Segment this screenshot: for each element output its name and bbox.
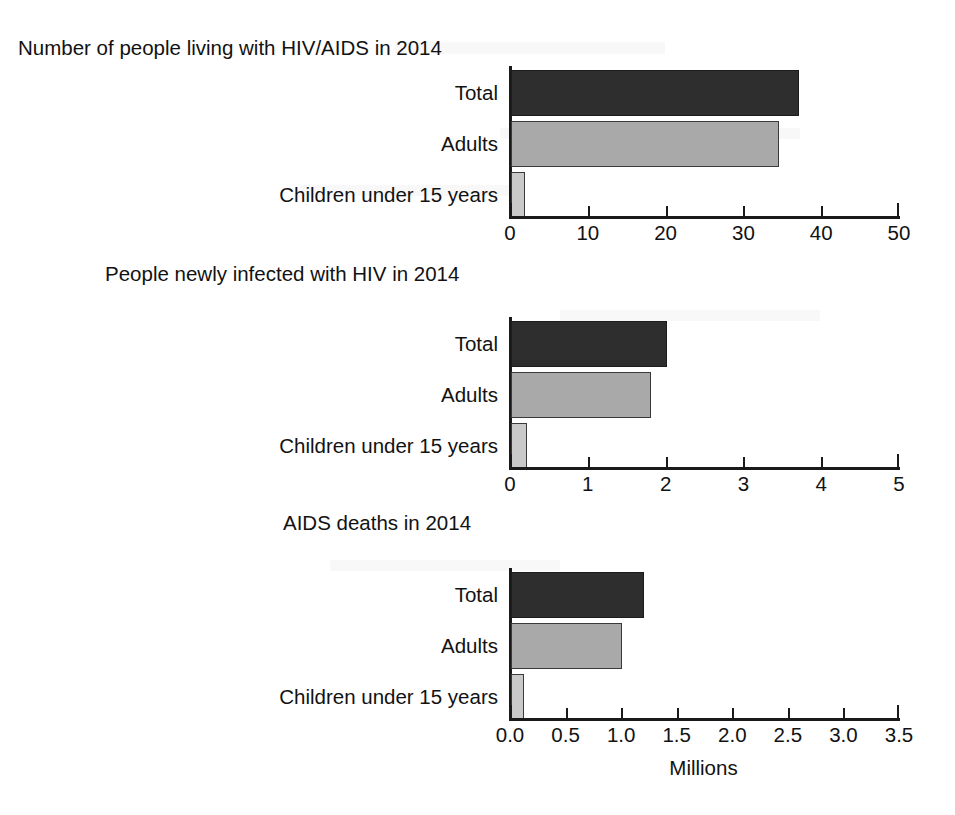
x-ticklabel-2-5: 4 xyxy=(815,473,826,495)
x-tick-1-2 xyxy=(588,206,590,216)
x-tick-3-3 xyxy=(621,708,623,718)
x-ticklabel-3-7: 3.0 xyxy=(829,724,858,746)
x-tick-1-4 xyxy=(743,206,745,216)
chart-title-1: Number of people living with HIV/AIDS in… xyxy=(18,36,442,60)
x-ticklabel-3-3: 1.0 xyxy=(607,724,636,746)
x-tick-3-6 xyxy=(788,708,790,718)
x-ticklabel-3-5: 2.0 xyxy=(718,724,747,746)
bar-total-1 xyxy=(511,70,799,116)
x-ticklabel-3-8: 3.5 xyxy=(885,724,914,746)
x-ticklabel-1-6: 50 xyxy=(888,222,911,244)
x-ticklabel-1-4: 30 xyxy=(732,222,755,244)
x-tick-3-2 xyxy=(566,708,568,718)
x-tick-1-1 xyxy=(510,203,512,216)
x-tick-2-1 xyxy=(510,454,512,467)
x-ticklabel-2-4: 3 xyxy=(738,473,749,495)
category-label-1-3: Children under 15 years xyxy=(0,183,498,207)
x-tick-3-1 xyxy=(510,705,512,718)
x-tick-1-3 xyxy=(666,206,668,216)
x-ticklabel-1-3: 20 xyxy=(654,222,677,244)
bar-adults-2 xyxy=(511,372,651,418)
x-ticklabel-2-2: 1 xyxy=(582,473,593,495)
plot-area-2: 012345 xyxy=(509,317,898,507)
x-ticklabel-1-1: 0 xyxy=(504,222,515,244)
bar-children-under-15-1 xyxy=(511,172,525,218)
x-ticklabel-2-6: 5 xyxy=(893,473,904,495)
category-label-3-2: Adults xyxy=(0,634,498,658)
x-tick-2-2 xyxy=(588,457,590,467)
chart-title-2: People newly infected with HIV in 2014 xyxy=(105,262,459,286)
bar-adults-1 xyxy=(511,121,779,167)
x-axis-spine-3 xyxy=(509,718,900,721)
bar-adults-3 xyxy=(511,623,622,669)
plot-area-3: 0.00.51.01.52.02.53.03.5 xyxy=(509,568,898,758)
plot-area-1: 01020304050 xyxy=(509,66,898,256)
x-ticklabel-1-5: 40 xyxy=(810,222,833,244)
x-tick-2-5 xyxy=(821,457,823,467)
x-ticklabel-3-6: 2.5 xyxy=(774,724,803,746)
x-axis-spine-1 xyxy=(509,216,900,219)
category-label-2-3: Children under 15 years xyxy=(0,434,498,458)
category-label-3-1: Total xyxy=(0,583,498,607)
x-ticklabel-2-3: 2 xyxy=(660,473,671,495)
x-tick-1-5 xyxy=(821,206,823,216)
x-ticklabel-3-4: 1.5 xyxy=(662,724,691,746)
bar-children-under-15-3 xyxy=(511,674,524,720)
x-tick-2-3 xyxy=(666,457,668,467)
bar-total-2 xyxy=(511,321,667,367)
bar-total-3 xyxy=(511,572,644,618)
category-label-1-1: Total xyxy=(0,81,498,105)
x-tick-3-8 xyxy=(897,705,899,718)
x-tick-2-4 xyxy=(743,457,745,467)
x-ticklabel-3-2: 0.5 xyxy=(551,724,580,746)
category-label-2-2: Adults xyxy=(0,383,498,407)
category-label-1-2: Adults xyxy=(0,132,498,156)
x-tick-3-4 xyxy=(677,708,679,718)
x-tick-2-6 xyxy=(897,454,899,467)
category-label-3-3: Children under 15 years xyxy=(0,685,498,709)
x-tick-1-6 xyxy=(897,203,899,216)
x-ticklabel-3-1: 0.0 xyxy=(496,724,525,746)
x-tick-3-5 xyxy=(732,708,734,718)
x-tick-3-7 xyxy=(843,708,845,718)
category-label-2-1: Total xyxy=(0,332,498,356)
x-axis-spine-2 xyxy=(509,467,900,470)
bar-children-under-15-2 xyxy=(511,423,527,469)
chart-title-3: AIDS deaths in 2014 xyxy=(283,511,471,535)
x-axis-title: Millions xyxy=(509,756,898,780)
x-ticklabel-1-2: 10 xyxy=(576,222,599,244)
x-ticklabel-2-1: 0 xyxy=(504,473,515,495)
